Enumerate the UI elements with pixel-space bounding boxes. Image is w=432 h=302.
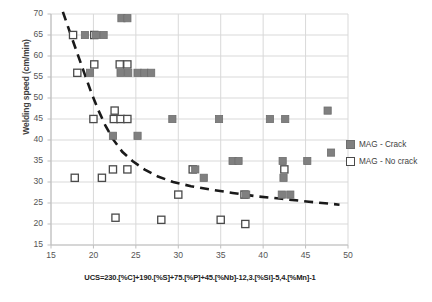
y-tick-label: 70 [19, 8, 43, 18]
legend-item-no-crack: MAG - No crack [346, 153, 417, 170]
data-point-no-crack [98, 174, 105, 181]
data-point-crack [235, 157, 242, 164]
x-tick-label: 30 [166, 250, 190, 260]
x-tick-label: 15 [39, 250, 63, 260]
data-point-crack [282, 115, 289, 122]
data-point-crack [81, 31, 88, 38]
data-point-crack [200, 174, 207, 181]
scatter-chart: Welding speed (cm/min) UCS=230.[%C]+190.… [0, 0, 432, 302]
data-point-crack [169, 115, 176, 122]
data-point-no-crack [124, 61, 131, 68]
data-point-no-crack [124, 166, 131, 173]
y-tick-label: 55 [19, 71, 43, 81]
open-square-icon [346, 157, 355, 166]
data-point-no-crack [110, 115, 117, 122]
data-point-no-crack [117, 115, 124, 122]
data-point-no-crack [71, 174, 78, 181]
data-point-crack [92, 31, 99, 38]
data-point-crack [243, 191, 250, 198]
data-point-crack [124, 15, 131, 22]
x-tick-label: 20 [81, 250, 105, 260]
data-point-crack [266, 115, 273, 122]
data-point-crack [327, 149, 334, 156]
data-point-no-crack [74, 69, 81, 76]
data-point-no-crack [112, 214, 119, 221]
data-point-crack [279, 157, 286, 164]
data-point-crack [134, 69, 141, 76]
y-tick-label: 35 [19, 155, 43, 165]
data-point-no-crack [281, 166, 288, 173]
data-point-no-crack [124, 115, 131, 122]
data-point-no-crack [111, 107, 118, 114]
data-point-crack [304, 157, 311, 164]
data-point-crack [148, 69, 155, 76]
legend-label-no-crack: MAG - No crack [359, 157, 417, 166]
data-point-crack [141, 69, 148, 76]
y-tick-label: 60 [19, 50, 43, 60]
data-point-crack [192, 166, 199, 173]
data-point-crack [100, 31, 107, 38]
data-point-no-crack [109, 166, 116, 173]
data-point-crack [109, 132, 116, 139]
filled-square-icon [346, 140, 355, 149]
legend-item-crack: MAG - Crack [346, 136, 417, 153]
y-tick-label: 50 [19, 92, 43, 102]
y-tick-label: 30 [19, 176, 43, 186]
data-point-no-crack [90, 115, 97, 122]
data-point-no-crack [217, 216, 224, 223]
x-tick-label: 50 [336, 250, 360, 260]
data-point-crack [134, 132, 141, 139]
y-tick-label: 20 [19, 218, 43, 228]
data-point-no-crack [69, 31, 76, 38]
x-tick-label: 40 [251, 250, 275, 260]
y-tick-label: 15 [19, 239, 43, 249]
data-point-no-crack [158, 216, 165, 223]
chart-legend: MAG - Crack MAG - No crack [346, 136, 417, 170]
legend-label-crack: MAG - Crack [359, 140, 406, 149]
data-point-no-crack [116, 61, 123, 68]
data-point-crack [278, 191, 285, 198]
data-point-crack [215, 115, 222, 122]
data-point-no-crack [175, 191, 182, 198]
data-point-crack [86, 69, 93, 76]
x-tick-label: 35 [209, 250, 233, 260]
data-point-crack [287, 191, 294, 198]
y-tick-label: 40 [19, 134, 43, 144]
data-point-crack [125, 69, 132, 76]
x-tick-label: 25 [124, 250, 148, 260]
data-point-crack [280, 174, 287, 181]
y-tick-label: 45 [19, 113, 43, 123]
data-point-no-crack [242, 220, 249, 227]
data-point-crack [324, 107, 331, 114]
y-tick-label: 25 [19, 197, 43, 207]
y-tick-label: 65 [19, 29, 43, 39]
data-point-no-crack [91, 61, 98, 68]
data-point-crack [117, 69, 124, 76]
x-tick-label: 45 [294, 250, 318, 260]
